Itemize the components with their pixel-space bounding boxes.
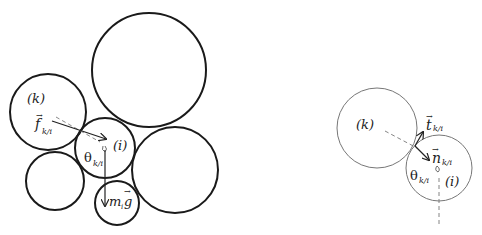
force-subscript: k/i — [42, 127, 53, 136]
granular-contact-diagram: (k) (i) → f k/i θ k/i m i → g (k) (i) → … — [0, 0, 482, 235]
label-i-right: (i) — [445, 174, 459, 189]
tangent-subscript: k/i — [433, 124, 444, 133]
center-line-dashed-right — [385, 131, 417, 148]
label-k-right: (k) — [356, 117, 374, 132]
gravity-mass-subscript: i — [121, 203, 123, 211]
label-i: (i) — [113, 138, 127, 153]
grain-k — [10, 74, 86, 150]
theta-subscript-right: k/i — [419, 176, 430, 185]
normal-label: n — [432, 150, 441, 166]
theta-arc-right-icon — [436, 166, 440, 172]
normal-subscript: k/i — [442, 158, 453, 167]
force-arrow — [52, 121, 106, 139]
grain-k-right — [337, 88, 417, 168]
theta-label-right: θ — [410, 168, 418, 183]
theta-subscript: k/i — [93, 159, 104, 168]
label-k: (k) — [27, 91, 45, 106]
theta-label: θ — [84, 150, 92, 165]
gravity-mass-label: m — [109, 194, 121, 209]
grain-large-top — [92, 13, 206, 127]
grain-bottom-left — [26, 152, 84, 210]
normal-arrow — [415, 146, 429, 160]
gravity-g-label: g — [124, 194, 132, 209]
tangent-label: t — [426, 117, 432, 133]
grain-right — [132, 127, 218, 213]
